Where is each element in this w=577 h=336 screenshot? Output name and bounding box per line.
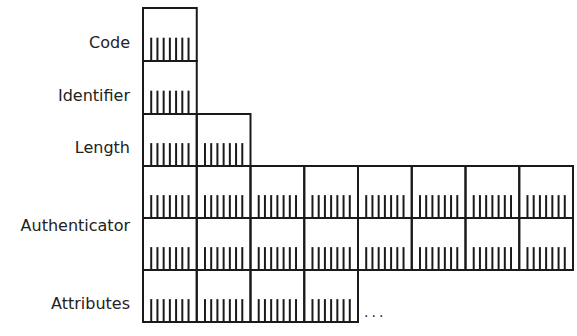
octet-cell [519, 166, 573, 218]
octet-cell [143, 218, 197, 270]
octet-cell [197, 218, 251, 270]
octet-grid [0, 0, 577, 336]
field-label-attributes: Attributes [51, 294, 130, 314]
continuation-ellipsis: ... [364, 304, 386, 320]
field-label-identifier: Identifier [58, 86, 130, 106]
octet-cell [358, 218, 412, 270]
octet-cell [466, 166, 520, 218]
octet-cell [197, 270, 251, 322]
field-label-length: Length [75, 138, 130, 158]
octet-cell [143, 8, 197, 61]
octet-cell [251, 270, 305, 322]
octet-cell [251, 218, 305, 270]
octet-cell [519, 218, 573, 270]
octet-cell [143, 166, 197, 218]
octet-cell [304, 218, 358, 270]
octet-cell [412, 218, 466, 270]
octet-cell [358, 166, 412, 218]
octet-cell [251, 166, 305, 218]
octet-cell [143, 61, 197, 114]
octet-cell [143, 114, 197, 166]
octet-cell [304, 270, 358, 322]
octet-cell [304, 166, 358, 218]
octet-cell [197, 114, 251, 166]
packet-format-diagram: CodeIdentifierLengthAuthenticatorAttribu… [0, 0, 577, 336]
field-label-authenticator: Authenticator [21, 216, 130, 236]
octet-cell [143, 270, 197, 322]
octet-cell [412, 166, 466, 218]
field-label-code: Code [89, 33, 130, 53]
octet-cell [466, 218, 520, 270]
octet-cell [197, 166, 251, 218]
